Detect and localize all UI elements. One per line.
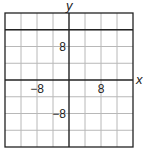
y-tick-label: 8 <box>59 40 66 54</box>
x-tick-label: 8 <box>98 82 105 96</box>
coordinate-grid: xy−888−8 <box>0 0 143 153</box>
y-tick-label: −8 <box>52 107 66 121</box>
x-tick-label: −8 <box>30 82 44 96</box>
y-axis-label: y <box>65 0 74 13</box>
x-axis-label: x <box>135 72 143 87</box>
